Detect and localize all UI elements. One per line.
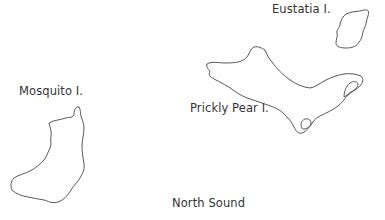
- prickly-pear-island-outline: [207, 47, 363, 133]
- eustatia-island-label: Eustatia I.: [272, 2, 331, 16]
- prickly-pear-island-label: Prickly Pear I.: [190, 101, 269, 115]
- north-sound-label: North Sound: [172, 196, 245, 210]
- mosquito-island-outline: [11, 107, 84, 203]
- mosquito-island-label: Mosquito I.: [19, 84, 83, 98]
- eustatia-island-outline: [336, 10, 369, 48]
